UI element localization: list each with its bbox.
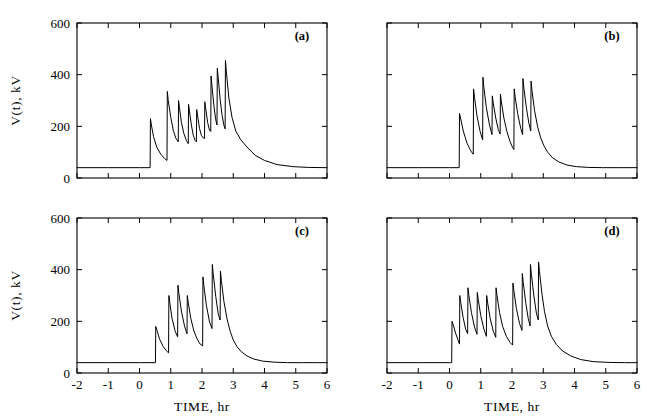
- x-tick-label: 2: [199, 377, 206, 392]
- panel-label: (c): [295, 224, 309, 238]
- x-tick-label: 4: [571, 377, 578, 392]
- panel-c: -2-101234560200400600(c): [51, 211, 331, 393]
- y-tick-label: 200: [51, 119, 71, 134]
- data-curve: [77, 60, 327, 167]
- plot-frame: [77, 218, 327, 373]
- x-axis-title: TIME, hr: [174, 399, 230, 414]
- x-tick-label: -2: [382, 377, 393, 392]
- x-tick-label: 2: [509, 377, 516, 392]
- x-axis-title: TIME, hr: [484, 399, 540, 414]
- panel-label: (b): [604, 29, 619, 43]
- x-tick-label: 5: [293, 377, 300, 392]
- y-axis-title: V(t), kV: [8, 270, 23, 321]
- y-tick-label: 600: [51, 211, 71, 226]
- x-tick-label: -1: [413, 377, 424, 392]
- panel-a: 0200400600(a): [51, 16, 328, 186]
- panel-b: (b): [387, 23, 637, 178]
- plot-frame: [387, 23, 637, 178]
- x-tick-label: 0: [446, 377, 453, 392]
- y-tick-label: 0: [64, 366, 71, 381]
- y-tick-label: 600: [51, 16, 71, 31]
- plot-frame: [387, 218, 637, 373]
- y-tick-label: 400: [51, 262, 71, 277]
- x-tick-label: 3: [230, 377, 237, 392]
- y-tick-label: 0: [64, 171, 71, 186]
- x-tick-label: 6: [634, 377, 641, 392]
- x-tick-label: 5: [603, 377, 610, 392]
- panel-d: -2-10123456(d): [382, 218, 641, 392]
- x-tick-label: -1: [103, 377, 114, 392]
- y-axis-title: V(t), kV: [8, 75, 23, 126]
- x-tick-label: -2: [72, 377, 83, 392]
- panel-label: (d): [604, 224, 619, 238]
- data-curve: [387, 77, 637, 167]
- x-tick-label: 6: [324, 377, 331, 392]
- x-tick-label: 1: [478, 377, 485, 392]
- data-curve: [77, 265, 327, 363]
- x-tick-label: 0: [136, 377, 143, 392]
- data-curve: [387, 262, 637, 363]
- figure-container: 0200400600(a)(b)-2-101234560200400600(c)…: [0, 0, 660, 417]
- x-tick-label: 3: [540, 377, 547, 392]
- four-panel-line-chart: 0200400600(a)(b)-2-101234560200400600(c)…: [0, 0, 660, 417]
- y-tick-label: 400: [51, 67, 71, 82]
- plot-frame: [77, 23, 327, 178]
- y-tick-label: 200: [51, 314, 71, 329]
- x-tick-label: 4: [261, 377, 268, 392]
- panel-label: (a): [295, 29, 310, 43]
- x-tick-label: 1: [168, 377, 175, 392]
